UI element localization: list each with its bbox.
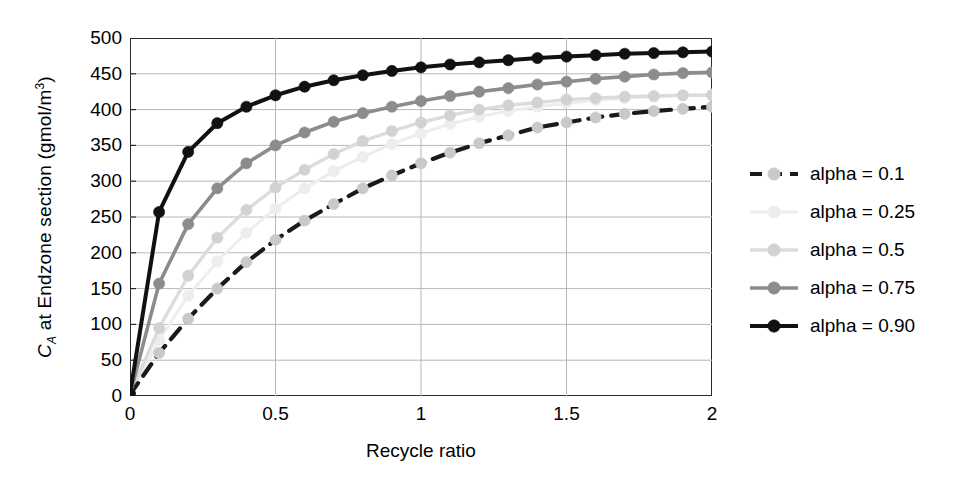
y-tick-label: 250 <box>64 207 122 226</box>
x-axis-title: Recycle ratio <box>130 440 712 462</box>
y-tick-label: 200 <box>64 243 122 262</box>
y-tick-label: 350 <box>64 135 122 154</box>
legend-item[interactable]: alpha = 0.5 <box>748 231 948 269</box>
y-tick-label: 300 <box>64 171 122 190</box>
legend-item-label: alpha = 0.75 <box>810 277 915 299</box>
legend-item-label: alpha = 0.90 <box>810 315 915 337</box>
legend-key-icon <box>748 240 800 260</box>
y-axis-superscript: 3 <box>33 83 47 90</box>
y-tick-label: 100 <box>64 314 122 333</box>
axis-tick-marks <box>130 38 136 396</box>
y-tick-label: 150 <box>64 279 122 298</box>
x-tick-label: 2 <box>682 404 742 423</box>
y-axis-tail-text: ) <box>34 76 55 83</box>
chart-figure: CA at Endzone section (gmol/m3) 05010015… <box>0 0 953 485</box>
y-tick-label: 400 <box>64 100 122 119</box>
legend-item[interactable]: alpha = 0.90 <box>748 307 948 345</box>
plot-curves <box>130 38 712 396</box>
x-tick-label: 0 <box>100 404 160 423</box>
x-tick-label: 1.5 <box>537 404 597 423</box>
legend-key-icon <box>748 164 800 184</box>
chart-legend: alpha = 0.1alpha = 0.25alpha = 0.5alpha … <box>748 155 948 345</box>
y-axis-subscript: A <box>45 336 59 344</box>
legend-item-label: alpha = 0.25 <box>810 201 915 223</box>
x-tick-label: 0.5 <box>246 404 306 423</box>
legend-item-label: alpha = 0.5 <box>810 239 905 261</box>
legend-item[interactable]: alpha = 0.25 <box>748 193 948 231</box>
y-axis-title: CA at Endzone section (gmol/m3) <box>33 27 63 407</box>
legend-key-icon <box>748 278 800 298</box>
y-tick-label: 0 <box>64 386 122 405</box>
legend-item[interactable]: alpha = 0.1 <box>748 155 948 193</box>
legend-item-label: alpha = 0.1 <box>810 163 905 185</box>
x-tick-label: 1 <box>391 404 451 423</box>
y-tick-label: 450 <box>64 64 122 83</box>
legend-key-icon <box>748 316 800 336</box>
y-axis-symbol: C <box>34 344 55 358</box>
legend-item[interactable]: alpha = 0.75 <box>748 269 948 307</box>
y-axis-middle-text: at Endzone section (gmol/m <box>34 90 55 336</box>
y-tick-label: 50 <box>64 350 122 369</box>
legend-key-icon <box>748 202 800 222</box>
y-tick-label: 500 <box>64 28 122 47</box>
